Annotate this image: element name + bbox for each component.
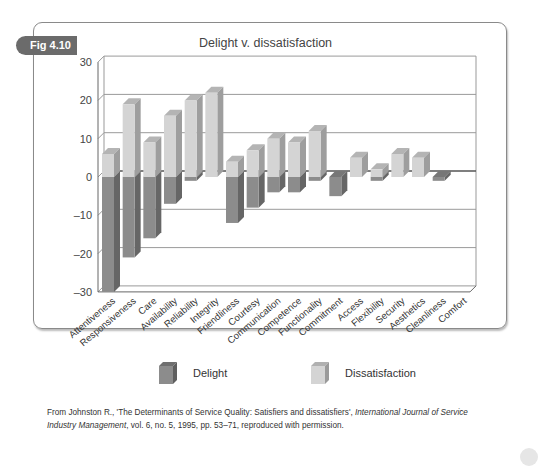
bar xyxy=(433,177,445,181)
bar xyxy=(309,177,321,181)
bar xyxy=(247,150,259,177)
bar xyxy=(143,143,155,177)
bar xyxy=(102,154,114,177)
y-tick-label: –30 xyxy=(74,286,92,298)
source-citation: From Johnston R., 'The Determinants of S… xyxy=(47,406,487,432)
bar xyxy=(267,177,279,192)
y-tick-label: 10 xyxy=(80,133,92,145)
y-tick-label: –10 xyxy=(74,209,92,221)
y-tick-label: 20 xyxy=(80,94,92,106)
bar xyxy=(143,177,155,238)
bar xyxy=(288,177,300,192)
y-tick-label: 30 xyxy=(80,56,92,68)
page-corner-decoration xyxy=(520,448,538,466)
bar xyxy=(371,169,383,177)
bar xyxy=(309,131,321,177)
bar xyxy=(123,177,135,257)
bar xyxy=(288,143,300,177)
bar xyxy=(391,154,403,177)
y-tick-label: –20 xyxy=(74,248,92,260)
legend-delight-label: Delight xyxy=(193,367,227,379)
bar xyxy=(371,177,383,181)
bar xyxy=(267,139,279,177)
bar xyxy=(205,93,217,177)
bar xyxy=(123,104,135,177)
bar xyxy=(247,177,259,208)
legend-dissatisfaction: Dissatisfaction xyxy=(345,367,416,379)
bar xyxy=(226,177,238,223)
bar xyxy=(412,158,424,177)
dissatisfaction-swatch-icon xyxy=(311,362,331,384)
bar xyxy=(185,177,197,181)
bar xyxy=(102,177,114,292)
legend-dissatisfaction-label: Dissatisfaction xyxy=(345,367,416,379)
bar xyxy=(329,177,341,196)
bar-chart: 3020100–10–20–30AttentivenessResponsiven… xyxy=(0,0,531,400)
bar xyxy=(185,100,197,177)
delight-swatch-icon xyxy=(159,362,179,384)
bar xyxy=(164,177,176,204)
bar xyxy=(350,158,362,177)
legend-delight: Delight xyxy=(193,367,227,379)
bar xyxy=(164,116,176,177)
bar xyxy=(226,162,238,177)
y-tick-label: 0 xyxy=(86,171,92,183)
